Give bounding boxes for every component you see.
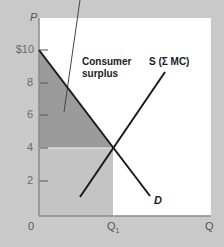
economics-diagram bbox=[0, 0, 224, 247]
supply-label: S (Σ MC) bbox=[149, 56, 189, 68]
lower-rectangle bbox=[39, 148, 113, 216]
q1-label: Q1 bbox=[107, 221, 119, 234]
q1-sub: 1 bbox=[116, 227, 120, 234]
y-label-10: $10 bbox=[10, 44, 34, 55]
q1-main: Q bbox=[107, 220, 116, 232]
y-label-8: 8 bbox=[9, 77, 33, 88]
axis-p-label: P bbox=[30, 12, 37, 23]
y-label-2: 2 bbox=[9, 175, 33, 186]
consumer-surplus-label: Consumersurplus bbox=[82, 56, 131, 79]
y-label-4: 4 bbox=[9, 142, 33, 153]
axis-q-label: Q bbox=[205, 221, 214, 232]
demand-label: D bbox=[154, 194, 162, 207]
y-label-6: 6 bbox=[9, 109, 33, 120]
origin-label: 0 bbox=[28, 221, 34, 232]
